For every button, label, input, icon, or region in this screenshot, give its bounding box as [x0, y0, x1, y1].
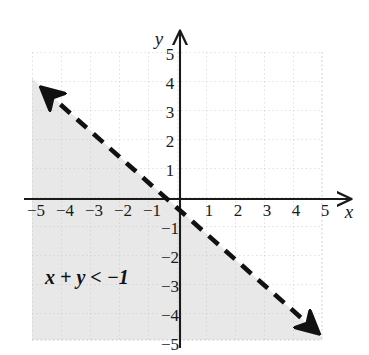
x-tick-label-neg2: −2 — [114, 201, 132, 220]
x-tick-label-neg3: −3 — [85, 201, 103, 220]
y-tick-label-4: 4 — [166, 74, 175, 93]
y-tick-label-neg1: −1 — [161, 219, 179, 238]
coordinate-plane-svg: y x −5 −4 −3 −2 −1 1 2 3 4 5 5 4 3 2 1 −… — [0, 0, 369, 355]
y-tick-label-neg3: −3 — [161, 277, 179, 296]
x-tick-label-3: 3 — [263, 201, 272, 220]
x-tick-label-neg1: −1 — [143, 201, 161, 220]
x-tick-label-1: 1 — [205, 201, 214, 220]
inequality-annotation: x + y < −1 — [44, 266, 129, 289]
x-tick-label-2: 2 — [234, 201, 243, 220]
y-tick-label-3: 3 — [166, 103, 175, 122]
y-tick-label-2: 2 — [166, 132, 175, 151]
y-tick-label-5: 5 — [166, 45, 175, 64]
x-tick-label-neg5: −5 — [27, 201, 45, 220]
y-tick-label-neg5: −5 — [161, 335, 179, 354]
y-tick-label-neg2: −2 — [161, 248, 179, 267]
y-tick-label-neg4: −4 — [161, 306, 180, 325]
y-axis-label: y — [153, 28, 164, 49]
x-tick-label-4: 4 — [292, 201, 301, 220]
x-axis-label: x — [344, 201, 354, 222]
x-tick-label-5: 5 — [321, 201, 330, 220]
y-tick-label-1: 1 — [166, 161, 175, 180]
x-tick-label-neg4: −4 — [56, 201, 75, 220]
inequality-graph-figure: y x −5 −4 −3 −2 −1 1 2 3 4 5 5 4 3 2 1 −… — [0, 0, 369, 355]
